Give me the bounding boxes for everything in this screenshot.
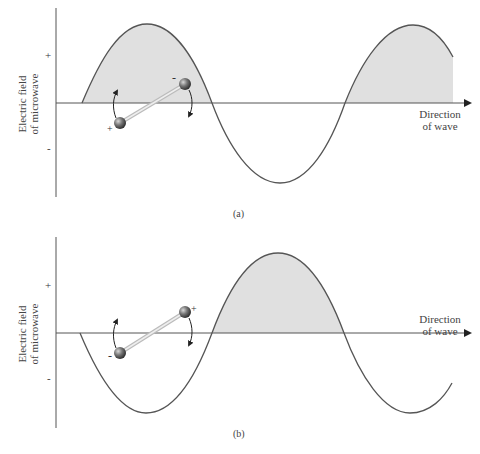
- direction-line2: of wave: [410, 120, 470, 132]
- direction-line2: of wave: [410, 325, 470, 337]
- dipole-atom-left: [114, 347, 126, 359]
- plus-tick-label: +: [45, 279, 51, 291]
- panel-caption: (b): [233, 428, 245, 439]
- dipole-atom-right: [179, 78, 191, 90]
- dipole-left-charge: +: [107, 123, 113, 134]
- y-axis-label-line2: of microwave: [28, 289, 40, 379]
- dipole-right-charge: -: [172, 71, 176, 86]
- panel-a: [56, 8, 470, 197]
- shaded-region: [212, 253, 344, 333]
- rotation-arrow-down: [189, 318, 192, 345]
- plus-tick-label: +: [45, 49, 51, 61]
- direction-of-wave-label: Direction of wave: [410, 108, 470, 132]
- y-axis-label-line2: of microwave: [28, 59, 40, 149]
- shaded-region: [345, 25, 453, 103]
- y-axis-label: Electric field of microwave: [16, 59, 40, 149]
- panel-b: [56, 237, 470, 428]
- y-axis-label-line1: Electric field: [16, 289, 28, 379]
- y-axis-label-line1: Electric field: [16, 59, 28, 149]
- y-axis-label: Electric field of microwave: [16, 289, 40, 379]
- rotation-arrow-up: [113, 320, 117, 348]
- dipole-atom-left: [114, 117, 126, 129]
- minus-tick-label: -: [47, 372, 51, 384]
- dipole-atom-right: [179, 306, 191, 318]
- minus-tick-label: -: [47, 142, 51, 154]
- dipole-left-charge: -: [108, 349, 112, 364]
- direction-line1: Direction: [410, 313, 470, 325]
- panel-caption: (a): [233, 208, 244, 219]
- direction-of-wave-label: Direction of wave: [410, 313, 470, 337]
- diagram-canvas: [0, 0, 480, 454]
- dipole-right-charge: +: [191, 303, 197, 314]
- direction-line1: Direction: [410, 108, 470, 120]
